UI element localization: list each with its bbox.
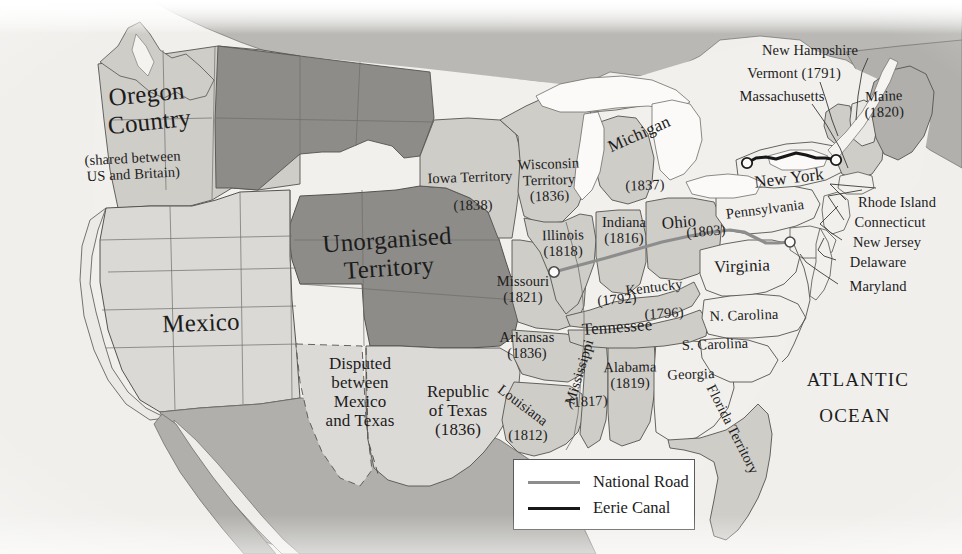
historical-map: Oregon Country(shared between US and Bri…	[0, 0, 962, 554]
legend-label-eerie-canal: Eerie Canal	[593, 498, 670, 518]
region-indiana	[596, 210, 646, 294]
national-road-east-terminus	[785, 237, 795, 247]
map-graphics	[0, 0, 962, 554]
eerie-canal-swatch	[528, 507, 580, 510]
legend-row-national-road: National Road	[514, 469, 694, 495]
eerie-canal-east-terminus	[831, 155, 841, 165]
legend-label-national-road: National Road	[593, 472, 689, 492]
national-road-west-terminus	[549, 267, 559, 277]
paper-top-fade	[0, 0, 962, 34]
region-n-carolina	[702, 294, 806, 338]
national-road-swatch	[528, 481, 580, 484]
legend-row-eerie-canal: Eerie Canal	[514, 495, 694, 521]
region-mexico	[100, 190, 300, 412]
eerie-canal-west-terminus	[742, 158, 752, 168]
map-legend: National Road Eerie Canal	[513, 459, 695, 530]
